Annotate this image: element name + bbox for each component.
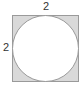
inscribed-circle [13, 16, 79, 82]
diagram-canvas [0, 0, 81, 87]
top-side-label: 2 [43, 1, 49, 12]
left-side-label: 2 [3, 42, 9, 53]
